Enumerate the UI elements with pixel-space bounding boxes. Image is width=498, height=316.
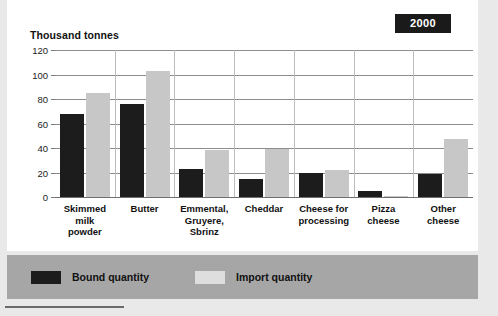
legend-swatch-bound-quantity	[31, 271, 61, 284]
bar-import	[384, 196, 408, 197]
legend-item-import-quantity: Import quantity	[195, 255, 312, 299]
legend-label-bound-quantity: Bound quantity	[72, 271, 149, 283]
y-tick-label-100: 100	[32, 69, 48, 80]
bar-bound	[179, 169, 203, 197]
x-axis-label: Cheddar	[234, 200, 294, 248]
x-axis-label: Othercheese	[413, 200, 473, 248]
bar-import	[325, 170, 349, 197]
y-tick-label-80: 80	[37, 94, 48, 105]
page-background: 2000 Thousand tonnes 020406080100120 Ski…	[0, 0, 498, 316]
y-tick-label-40: 40	[37, 143, 48, 154]
bar-group	[115, 50, 175, 197]
y-tick-label-20: 20	[37, 167, 48, 178]
chart-panel: 2000 Thousand tonnes 020406080100120 Ski…	[7, 0, 478, 251]
x-axis-label: Butter	[115, 200, 175, 248]
bar-group	[354, 50, 414, 197]
bar-bound	[60, 114, 84, 197]
x-axis-label: Cheese forprocessing	[294, 200, 354, 248]
bar-import	[146, 71, 170, 197]
bar-import	[205, 150, 229, 197]
legend-label-import-quantity: Import quantity	[236, 271, 312, 283]
legend: Bound quantity Import quantity	[7, 255, 478, 299]
bar-bound	[120, 104, 144, 197]
footer-divider	[5, 306, 124, 308]
bar-group	[55, 50, 115, 197]
x-axis-label: Pizzacheese	[354, 200, 414, 248]
y-tick-label-0: 0	[43, 192, 48, 203]
bar-import	[265, 149, 289, 197]
bar-bound	[239, 179, 263, 197]
x-axis-labels: SkimmedmilkpowderButterEmmental,Gruyere,…	[55, 200, 473, 248]
x-axis-label: Skimmedmilkpowder	[55, 200, 115, 248]
bar-group	[174, 50, 234, 197]
bar-bound	[418, 174, 442, 197]
bar-group	[234, 50, 294, 197]
y-tick-label-60: 60	[37, 118, 48, 129]
bar-group	[413, 50, 473, 197]
y-tick-0	[51, 197, 55, 198]
bar-group	[294, 50, 354, 197]
bar-import	[444, 139, 468, 197]
bar-groups	[55, 50, 473, 197]
bar-import	[86, 93, 110, 197]
y-axis-title: Thousand tonnes	[30, 29, 119, 41]
bar-bound	[358, 191, 382, 197]
bar-bound	[299, 173, 323, 198]
x-axis-label: Emmental,Gruyere,Sbrinz	[174, 200, 234, 248]
y-tick-label-120: 120	[32, 45, 48, 56]
plot-area: 020406080100120	[55, 50, 473, 197]
legend-item-bound-quantity: Bound quantity	[31, 255, 149, 299]
legend-swatch-import-quantity	[195, 271, 225, 284]
gridline-0	[55, 197, 473, 198]
year-badge: 2000	[395, 14, 451, 33]
